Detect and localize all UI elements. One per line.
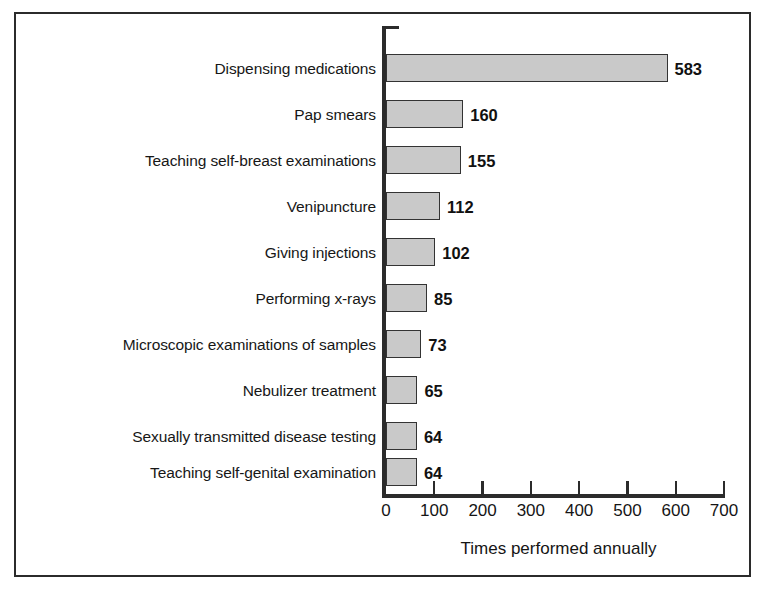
x-tick-label-200: 200 xyxy=(468,502,496,519)
x-tick-400 xyxy=(578,481,580,494)
x-tick-label-600: 600 xyxy=(662,502,690,519)
bar-value-pap-smears: 160 xyxy=(470,107,498,124)
bar-teaching-self-genital-examination[interactable] xyxy=(386,458,417,486)
x-tick-label-700: 700 xyxy=(710,502,738,519)
bar-dispensing-medications[interactable] xyxy=(386,54,668,82)
category-label-microscopic-examinations-of-samples: Microscopic examinations of samples xyxy=(16,337,376,353)
bar-value-microscopic-examinations-of-samples: 73 xyxy=(428,337,446,354)
x-tick-700 xyxy=(723,481,725,494)
bar-value-giving-injections: 102 xyxy=(442,245,470,262)
x-tick-label-300: 300 xyxy=(517,502,545,519)
bar-venipuncture[interactable] xyxy=(386,192,440,220)
bar-sexually-transmitted-disease-testing[interactable] xyxy=(386,422,417,450)
bar-chart-plot-area: Dispensing medications Pap smears Teachi… xyxy=(0,0,767,595)
bar-nebulizer-treatment[interactable] xyxy=(386,376,417,404)
bar-teaching-self-breast-examinations[interactable] xyxy=(386,146,461,174)
bar-value-performing-x-rays: 85 xyxy=(434,291,452,308)
category-label-dispensing-medications: Dispensing medications xyxy=(16,61,376,77)
category-label-teaching-self-breast-examinations: Teaching self-breast examinations xyxy=(16,153,376,169)
y-axis-top-tick xyxy=(382,26,399,29)
x-tick-label-500: 500 xyxy=(613,502,641,519)
bar-value-teaching-self-genital-examination: 64 xyxy=(424,465,442,482)
category-label-pap-smears: Pap smears xyxy=(16,107,376,123)
bar-value-nebulizer-treatment: 65 xyxy=(424,383,442,400)
category-label-giving-injections: Giving injections xyxy=(16,245,376,261)
x-tick-200 xyxy=(481,481,483,494)
bar-microscopic-examinations-of-samples[interactable] xyxy=(386,330,421,358)
category-label-nebulizer-treatment: Nebulizer treatment xyxy=(16,383,376,399)
x-axis-line xyxy=(382,494,725,498)
bar-value-venipuncture: 112 xyxy=(447,199,474,216)
y-axis-line xyxy=(382,26,386,496)
bar-value-sexually-transmitted-disease-testing: 64 xyxy=(424,429,442,446)
bar-performing-x-rays[interactable] xyxy=(386,284,427,312)
x-tick-500 xyxy=(626,481,628,494)
bar-giving-injections[interactable] xyxy=(386,238,435,266)
bar-value-dispensing-medications: 583 xyxy=(675,61,703,78)
x-tick-label-100: 100 xyxy=(420,502,448,519)
x-tick-300 xyxy=(530,481,532,494)
category-label-sexually-transmitted-disease-testing: Sexually transmitted disease testing xyxy=(16,429,376,445)
bar-value-teaching-self-breast-examinations: 155 xyxy=(468,153,496,170)
category-label-venipuncture: Venipuncture xyxy=(16,199,376,215)
x-tick-600 xyxy=(675,481,677,494)
bar-pap-smears[interactable] xyxy=(386,100,463,128)
x-tick-label-400: 400 xyxy=(565,502,593,519)
category-label-performing-x-rays: Performing x-rays xyxy=(16,291,376,307)
x-axis-title: Times performed annually xyxy=(386,540,731,557)
category-label-teaching-self-genital-examination: Teaching self-genital examination xyxy=(16,465,376,481)
x-tick-100 xyxy=(433,481,435,494)
x-tick-label-0: 0 xyxy=(381,502,390,519)
